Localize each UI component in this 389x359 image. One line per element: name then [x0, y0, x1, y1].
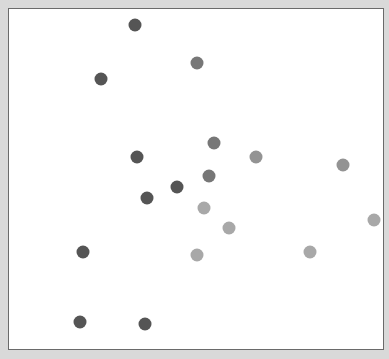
data-point-dark	[131, 151, 144, 164]
scatter-plot-area	[8, 8, 384, 350]
data-point-light	[191, 249, 204, 262]
data-point-dark	[95, 73, 108, 86]
data-point-light	[304, 246, 317, 259]
data-point-medium	[203, 170, 216, 183]
data-point-dark	[74, 316, 87, 329]
data-point-light	[368, 214, 381, 227]
data-point-dark	[77, 246, 90, 259]
data-point-medium	[208, 137, 221, 150]
data-point-light	[223, 222, 236, 235]
data-point-medium	[191, 57, 204, 70]
data-point-dark	[129, 19, 142, 32]
data-point-dark	[141, 192, 154, 205]
data-point-light-medium	[337, 159, 350, 172]
data-point-light-medium	[250, 151, 263, 164]
data-point-dark	[139, 318, 152, 331]
data-point-light	[198, 202, 211, 215]
data-point-dark	[171, 181, 184, 194]
